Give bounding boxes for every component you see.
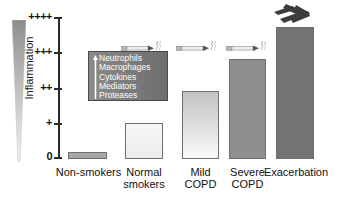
- y-tick-label-1: +: [46, 116, 52, 128]
- cigarette-icon-mild-copd: [176, 41, 218, 55]
- mediator-item-proteases: Proteases: [99, 91, 165, 100]
- bar-non-smokers: [68, 152, 107, 159]
- copd-inflammation-figure: Inflammation ++++ +++ ++ + 0 Non-smokers…: [0, 0, 340, 203]
- bar-label-non-smokers: Non-smokers: [55, 166, 122, 178]
- burst-icon-exacerbation: [272, 2, 316, 28]
- y-tick-mark-1: [54, 123, 62, 125]
- y-tick-mark-2: [54, 88, 62, 90]
- bar-mild-copd: [182, 91, 219, 159]
- y-tick-mark-4: [54, 17, 62, 19]
- mediator-list: Neutrophils Macrophages Cytokines Mediat…: [99, 54, 165, 100]
- bar-exacerbation: [276, 27, 314, 159]
- bar-label-mild-copd: Mild COPD: [176, 166, 225, 190]
- bar-severe-copd: [229, 59, 266, 159]
- bar-label-exacerbation: Exacerbation: [263, 166, 329, 178]
- cigarette-icon-severe-copd: [226, 41, 268, 55]
- y-tick-mark-3: [54, 52, 62, 54]
- y-tick-label-3: +++: [34, 45, 52, 57]
- y-tick-label-4: ++++: [28, 10, 52, 22]
- y-tick-mark-0: [54, 157, 62, 159]
- bar-normal-smokers: [125, 123, 163, 159]
- bar-label-normal-smokers: Normal smokers: [118, 166, 170, 190]
- y-axis-title: Inflammation: [23, 23, 35, 113]
- y-tick-label-0: 0: [46, 150, 52, 162]
- up-arrow-icon: [93, 55, 98, 99]
- mediator-callout-box: Neutrophils Macrophages Cytokines Mediat…: [88, 51, 168, 101]
- y-tick-label-2: ++: [40, 81, 52, 93]
